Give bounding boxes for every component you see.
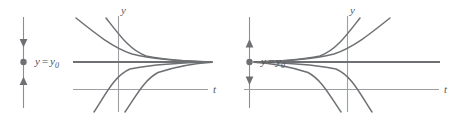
panel-stable-equilibrium: y t y=y0: [0, 0, 232, 121]
solution-curve-below-inner: [94, 62, 212, 112]
phase-arrow-down-icon: [246, 77, 254, 86]
panel-unstable-equilibrium: y t y=y0: [232, 0, 463, 121]
phase-arrow-down-icon: [20, 39, 28, 48]
equilibrium-label: y=y0: [261, 56, 285, 70]
equilibrium-label-equals: =: [266, 55, 276, 67]
t-axis-label: t: [444, 84, 447, 95]
equilibrium-label-subscript: 0: [281, 61, 285, 70]
phase-equilibrium-dot: [20, 59, 26, 65]
solution-curve-above-inner: [106, 18, 212, 62]
solution-curve-below-outer: [125, 62, 212, 112]
phase-line-solution-figure: y t y=y0: [0, 0, 463, 121]
equilibrium-label-subscript: 0: [55, 61, 59, 70]
phase-equilibrium-dot: [246, 59, 252, 65]
t-axis-label: t: [213, 84, 216, 95]
y-axis-label: y: [121, 5, 126, 16]
phase-arrow-up-icon: [246, 39, 254, 48]
phase-arrow-up-icon: [20, 77, 28, 86]
equilibrium-label: y=y0: [35, 56, 59, 70]
y-axis-label: y: [350, 5, 355, 16]
equilibrium-label-equals: =: [40, 55, 50, 67]
